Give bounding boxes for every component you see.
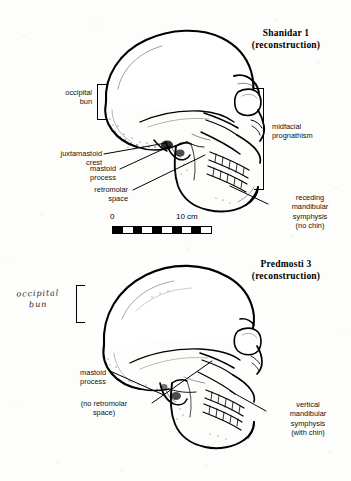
bracket-midfacial-prognathism xyxy=(254,88,264,190)
bracket-occipital-bun-shanidar xyxy=(97,84,107,120)
scale-bar: 0 10 cm xyxy=(110,212,220,236)
panel-predmosti-3: Predmosti 3 (reconstruction) occipital b… xyxy=(0,245,351,481)
label-mastoid-process-shanidar: mastoid process xyxy=(52,164,116,183)
scale-bar-ruler xyxy=(112,226,212,234)
label-occipital-bun-predmosti-handwritten: occipital bun xyxy=(6,287,71,311)
skull-comparison-figure: Shanidar 1 (reconstruction) occipital bu… xyxy=(0,0,351,481)
panel-title-predmosti: Predmosti 3 (reconstruction) xyxy=(226,259,346,282)
label-mastoid-process-predmosti: mastoid process xyxy=(40,368,106,387)
panel-shanidar-1: Shanidar 1 (reconstruction) occipital bu… xyxy=(0,0,351,245)
label-receding-mandibular-symphysis: receding mandibular symphysis (no chin) xyxy=(272,193,348,230)
skull-drawing-predmosti-3 xyxy=(88,253,278,458)
scale-bar-start-label: 0 xyxy=(110,212,114,221)
label-no-retromolar-space: (no retromolar space) xyxy=(58,399,150,418)
label-midfacial-prognathism: midfacial prognathism xyxy=(272,122,348,141)
scale-bar-end-label: 10 cm xyxy=(176,212,198,221)
label-vertical-mandibular-symphysis: vertical mandibular symphysis (with chin… xyxy=(270,400,346,437)
label-occipital-bun-shanidar: occipital bun xyxy=(28,88,92,107)
label-retromolar-space-shanidar: retromolar space xyxy=(58,185,128,204)
panel-title-shanidar: Shanidar 1 (reconstruction) xyxy=(226,28,346,51)
bracket-occipital-bun-predmosti xyxy=(76,285,85,323)
